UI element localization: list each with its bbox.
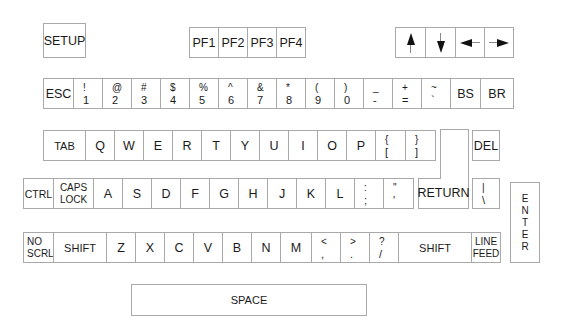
key-bottom-label: 1: [83, 94, 89, 107]
key-no-scroll[interactable]: NOSCRL: [23, 232, 54, 263]
key-bottom-label: /: [379, 248, 382, 261]
key-top-label: +: [402, 81, 408, 94]
key-f[interactable]: F: [180, 178, 210, 209]
key-esc[interactable]: ESC: [43, 78, 74, 109]
key-left-bracket[interactable]: {[: [375, 130, 406, 161]
key-m[interactable]: M: [280, 232, 312, 263]
down-arrow-icon: [437, 33, 445, 53]
key-right-bracket[interactable]: }]: [405, 130, 436, 161]
key-down-arrow[interactable]: [425, 27, 456, 58]
key-bottom-label: 0: [344, 94, 350, 107]
key-2[interactable]: @2: [102, 78, 132, 109]
key-bottom-label: \: [482, 194, 485, 207]
key-k[interactable]: K: [296, 178, 326, 209]
key-bottom-label: =: [402, 94, 408, 107]
key-h[interactable]: H: [238, 178, 268, 209]
key-br[interactable]: BR: [480, 78, 514, 109]
key-4[interactable]: $4: [160, 78, 190, 109]
key-bottom-label: ;: [364, 194, 367, 207]
key-top-label: (: [315, 81, 318, 94]
key-top-label: #: [141, 81, 147, 94]
key-pf3[interactable]: PF3: [247, 27, 277, 58]
key-top-label: }: [415, 133, 418, 146]
key-n[interactable]: N: [251, 232, 281, 263]
key-1[interactable]: !1: [73, 78, 103, 109]
key-top-label: ?: [379, 235, 385, 248]
key-tab[interactable]: TAB: [43, 130, 86, 161]
key-9[interactable]: (9: [305, 78, 335, 109]
key-pf2[interactable]: PF2: [218, 27, 248, 58]
key-e[interactable]: E: [143, 130, 173, 161]
key-quote[interactable]: "': [383, 178, 414, 209]
key-left-shift[interactable]: SHIFT: [53, 232, 107, 263]
key-right-shift[interactable]: SHIFT: [398, 232, 472, 263]
key-u[interactable]: U: [259, 130, 289, 161]
key-w[interactable]: W: [114, 130, 144, 161]
key-x[interactable]: X: [135, 232, 165, 263]
key-8[interactable]: *8: [276, 78, 306, 109]
return-divider: [418, 178, 441, 179]
key-backtick[interactable]: ~`: [421, 78, 451, 109]
key-3[interactable]: #3: [131, 78, 161, 109]
key-5[interactable]: %5: [189, 78, 219, 109]
key-a[interactable]: A: [93, 178, 123, 209]
enter-letter: E: [522, 193, 529, 205]
key-o[interactable]: O: [317, 130, 347, 161]
key-s[interactable]: S: [122, 178, 152, 209]
key-up-arrow[interactable]: [395, 27, 426, 58]
key-backslash[interactable]: |\: [472, 178, 500, 209]
key-label-line2: FEED: [473, 248, 500, 260]
key-ctrl[interactable]: CTRL: [23, 178, 54, 209]
key-minus[interactable]: _-: [363, 78, 393, 109]
key-c[interactable]: C: [164, 232, 194, 263]
key-pf1[interactable]: PF1: [189, 27, 219, 58]
enter-letter: N: [521, 205, 528, 217]
key-right-arrow[interactable]: [484, 27, 514, 58]
key-equals[interactable]: +=: [392, 78, 422, 109]
key-j[interactable]: J: [267, 178, 297, 209]
key-pf4[interactable]: PF4: [276, 27, 306, 58]
key-l[interactable]: L: [325, 178, 355, 209]
key-label-line1: NO: [27, 236, 42, 248]
key-z[interactable]: Z: [106, 232, 136, 263]
enter-letter: R: [521, 241, 528, 253]
key-bottom-label: [: [385, 146, 388, 159]
key-caps-lock[interactable]: CAPSLOCK: [53, 178, 94, 209]
key-t[interactable]: T: [201, 130, 231, 161]
key-0[interactable]: )0: [334, 78, 364, 109]
key-line-feed[interactable]: LINEFEED: [471, 232, 501, 263]
key-enter[interactable]: E N T E R: [510, 182, 540, 263]
key-bs[interactable]: BS: [450, 78, 481, 109]
key-return[interactable]: RETURN: [418, 178, 469, 209]
key-del[interactable]: DEL: [472, 130, 500, 161]
key-d[interactable]: D: [151, 178, 181, 209]
key-b[interactable]: B: [222, 232, 252, 263]
right-arrow-icon: [489, 39, 509, 47]
key-bottom-label: 7: [257, 94, 263, 107]
key-y[interactable]: Y: [230, 130, 260, 161]
key-r[interactable]: R: [172, 130, 202, 161]
key-g[interactable]: G: [209, 178, 239, 209]
key-bottom-label: 8: [286, 94, 292, 107]
key-space[interactable]: SPACE: [131, 284, 367, 316]
key-q[interactable]: Q: [85, 130, 115, 161]
key-7[interactable]: &7: [247, 78, 277, 109]
key-bottom-label: .: [350, 248, 353, 261]
key-i[interactable]: I: [288, 130, 318, 161]
key-setup[interactable]: SETUP: [43, 23, 86, 58]
key-p[interactable]: P: [346, 130, 376, 161]
key-top-label: %: [199, 81, 208, 94]
key-period[interactable]: >.: [340, 232, 370, 263]
key-return-upper[interactable]: [440, 129, 469, 180]
key-v[interactable]: V: [193, 232, 223, 263]
key-top-label: <: [321, 235, 327, 248]
up-arrow-icon: [407, 33, 415, 53]
key-slash[interactable]: ?/: [369, 232, 399, 263]
key-left-arrow[interactable]: [455, 27, 485, 58]
key-top-label: *: [286, 81, 290, 94]
key-6[interactable]: ^6: [218, 78, 248, 109]
key-semicolon[interactable]: :;: [354, 178, 384, 209]
key-label-line1: LINE: [475, 236, 497, 248]
key-bottom-label: 9: [315, 94, 321, 107]
key-comma[interactable]: <,: [311, 232, 341, 263]
